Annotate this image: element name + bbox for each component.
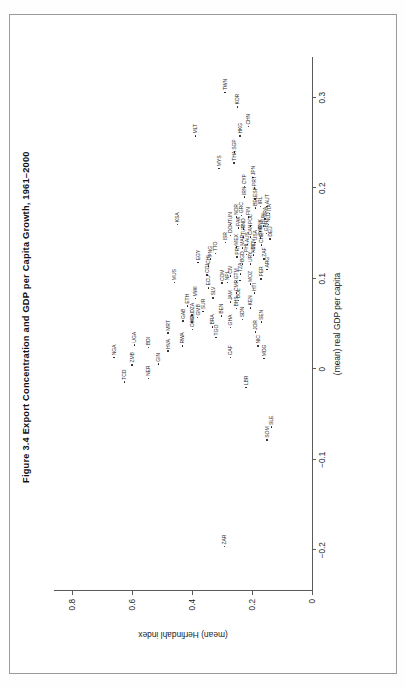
x-tick <box>312 459 316 460</box>
plot-rotation-wrapper: −0.2−0.100.10.20.300.20.40.60.8 (mean) r… <box>38 39 368 649</box>
data-point <box>134 344 136 346</box>
x-tick-label: 0 <box>318 367 327 372</box>
data-point-label: MLT <box>192 124 198 133</box>
data-point-label: SLE <box>268 416 274 425</box>
data-point-label: JOR <box>252 320 258 330</box>
data-point-label: SEN <box>258 310 264 320</box>
data-point <box>221 315 223 317</box>
data-point <box>250 263 252 265</box>
data-point-label: GAB <box>180 309 186 319</box>
data-point <box>191 321 193 323</box>
data-point-label: EGY <box>195 250 201 260</box>
data-point <box>260 206 262 208</box>
data-point-label: ZAR <box>221 535 227 545</box>
data-point <box>218 168 220 170</box>
data-point <box>225 242 227 244</box>
data-point <box>148 347 150 349</box>
x-tick <box>312 97 316 98</box>
y-axis-line <box>54 590 312 591</box>
data-point <box>238 227 240 229</box>
data-point-label: ETH <box>184 294 190 304</box>
y-axis-title: (mean) Herfindahl index <box>138 630 227 640</box>
x-tick <box>312 278 316 279</box>
data-point <box>191 314 193 316</box>
data-point <box>271 426 273 428</box>
data-point <box>174 282 176 284</box>
data-point <box>255 331 257 333</box>
data-point <box>263 358 265 360</box>
data-point <box>236 256 238 258</box>
data-point <box>221 282 223 284</box>
data-point <box>239 280 241 282</box>
y-tick-label: 0.8 <box>68 588 77 599</box>
x-tick-label: −0.2 <box>318 542 327 558</box>
data-point <box>131 364 133 366</box>
data-point-label: NOR <box>233 204 239 215</box>
data-point-label: LBR <box>243 376 249 385</box>
y-tick-label: 0.4 <box>188 588 197 599</box>
data-point <box>227 282 229 284</box>
data-point <box>266 206 268 208</box>
data-point-label: BRA <box>209 314 215 324</box>
data-point <box>230 301 232 303</box>
data-point <box>182 321 184 323</box>
data-point-label: PER <box>258 267 264 277</box>
data-point-label: MOZ <box>247 271 253 282</box>
data-point <box>230 327 232 329</box>
data-point-label: KEN <box>247 295 253 305</box>
data-point <box>242 319 244 321</box>
data-point <box>269 238 271 240</box>
data-point <box>257 345 259 347</box>
x-tick-label: 0.3 <box>318 92 327 103</box>
data-point <box>266 269 268 271</box>
data-point <box>237 106 239 108</box>
data-point <box>263 258 265 260</box>
data-point-label: CHN <box>245 114 251 125</box>
data-point <box>206 274 208 276</box>
data-point <box>266 439 268 441</box>
data-point <box>260 278 262 280</box>
data-point <box>224 92 226 94</box>
data-point-label: TWN <box>222 79 228 90</box>
data-point <box>244 197 246 199</box>
data-point-label: ZMB <box>129 352 135 362</box>
x-tick-label: 0.2 <box>318 183 327 194</box>
data-point <box>212 297 214 299</box>
y-tick-label: 0.2 <box>248 588 257 599</box>
data-point-label: ISR <box>222 232 228 240</box>
x-tick <box>312 187 316 188</box>
data-point <box>245 387 247 389</box>
data-point <box>113 357 115 359</box>
data-point <box>124 381 126 383</box>
data-point <box>260 237 262 239</box>
data-point-label: ECU <box>205 275 211 285</box>
data-point-label: SOM <box>264 427 270 438</box>
data-point <box>236 246 238 248</box>
data-point-label: MDG <box>261 345 267 356</box>
data-point-label: JAM <box>227 290 233 300</box>
data-point <box>177 224 179 226</box>
data-point-label: HVA <box>165 339 171 349</box>
data-point-label: URY <box>247 252 253 262</box>
data-point <box>167 332 169 334</box>
data-point-label: SDN <box>239 307 245 317</box>
x-axis-title: (mean) real GDP per capita <box>332 273 342 375</box>
data-point-label: MYS <box>216 156 222 167</box>
data-point <box>242 247 244 249</box>
data-point <box>253 254 255 256</box>
data-point-label: GIN <box>155 353 161 362</box>
data-point <box>215 253 217 255</box>
data-point-label: JPN <box>250 166 256 175</box>
data-point <box>182 345 184 347</box>
data-point <box>192 329 194 331</box>
data-point-label: SUR <box>200 299 206 309</box>
data-point <box>148 378 150 380</box>
data-point-label: MDV <box>250 239 256 250</box>
y-tick-label: 0.6 <box>128 588 137 599</box>
data-point-label: NGA <box>111 345 117 356</box>
data-point-label: UGA <box>131 332 137 343</box>
data-point <box>248 126 250 128</box>
data-point <box>230 235 232 237</box>
data-point-label: AUT <box>264 194 270 204</box>
data-point-label: KSA <box>174 213 180 223</box>
